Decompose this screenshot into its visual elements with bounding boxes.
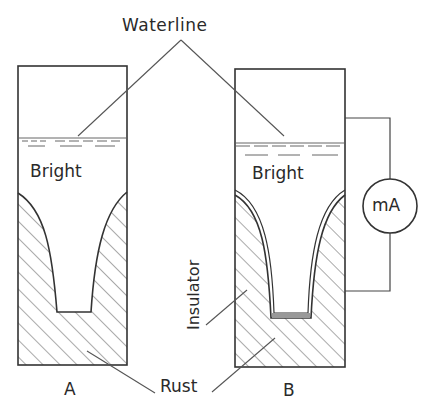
container-b — [235, 69, 345, 367]
rust-deposit-a — [18, 192, 127, 365]
rust-label: Rust — [160, 378, 197, 395]
bright-label-b: Bright — [252, 165, 304, 182]
ammeter-label: mA — [372, 197, 400, 214]
waterline-a — [19, 138, 126, 146]
rust-deposit-b — [235, 195, 345, 367]
container-a — [18, 66, 127, 365]
diagram: Waterline Bright Bright mA Insulator Rus… — [0, 0, 434, 413]
waterline-b — [236, 143, 344, 155]
container-b-label: B — [283, 382, 295, 399]
container-a-label: A — [64, 381, 76, 398]
insulator-label: Insulator — [186, 260, 202, 330]
diagram-drawing — [0, 0, 434, 413]
waterline-label: Waterline — [122, 17, 207, 34]
bright-label-a: Bright — [30, 163, 82, 180]
